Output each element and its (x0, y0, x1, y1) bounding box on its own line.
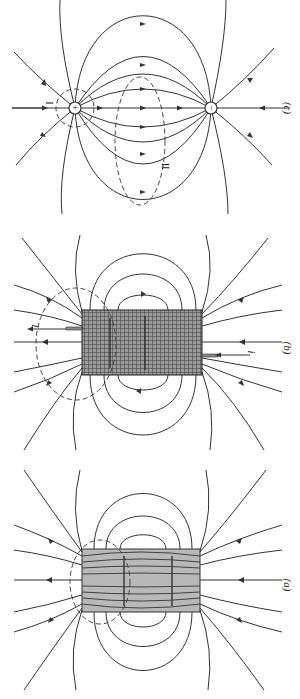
panel-b-solenoid (14, 235, 282, 450)
region-II-boundary (115, 77, 165, 205)
panel-a-label: (a) (281, 579, 294, 592)
panel-c-label: (c) (281, 102, 294, 115)
current-lead-left (66, 327, 82, 330)
panel-c-dipole (12, 0, 290, 214)
current-label-right: i (246, 350, 258, 353)
negative-charge-symbol: − (206, 105, 217, 111)
field-lines-figure: + − I II (c) (0, 0, 300, 699)
current-lead-right (202, 354, 218, 357)
positive-charge-symbol: + (72, 102, 78, 113)
solenoid-coil (82, 310, 202, 375)
region-I-label: I (44, 101, 55, 104)
panel-b-label: (b) (281, 342, 294, 355)
current-label-left: i (30, 324, 42, 327)
bar-magnet (82, 549, 200, 612)
panel-a-magnet (14, 470, 282, 690)
region-II-label: II (160, 163, 171, 170)
